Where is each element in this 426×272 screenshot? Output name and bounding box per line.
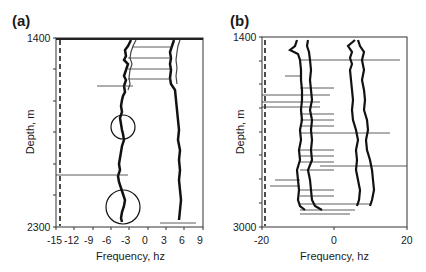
panel-b-trace-2 xyxy=(307,40,322,210)
panel-b-trace-3 xyxy=(348,40,360,206)
chart-graphics xyxy=(0,0,426,272)
panel-a-left-trace xyxy=(118,40,131,222)
panel-b-trace-4 xyxy=(358,40,374,206)
panel-b-trace-1 xyxy=(290,40,305,210)
panel-b-plot xyxy=(259,37,407,230)
panel-a-right-trace xyxy=(170,40,181,220)
panel-a-plot xyxy=(53,38,203,230)
